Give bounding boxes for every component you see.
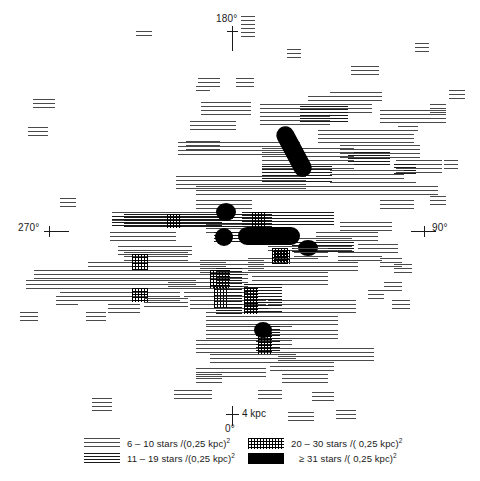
density-patch-level-1 — [196, 374, 222, 386]
legend-item-density-1: 6 – 10 stars /(0,25 kpc)2 — [84, 437, 235, 450]
legend-label-density-4-exponent: 2 — [393, 452, 397, 459]
legend-label-density-4: ≥ 31 stars /( 0,25 kpc)2 — [291, 452, 397, 464]
density-patch-level-1 — [340, 222, 392, 234]
density-map-canvas — [0, 0, 480, 481]
density-patch-level-1 — [86, 312, 106, 324]
legend-swatch-density-3 — [248, 438, 284, 449]
density-patch-level-1 — [28, 127, 48, 139]
scale-bar-label: 4 kpc — [242, 408, 266, 419]
density-patch-level-4 — [215, 228, 233, 246]
legend-label-density-4-text: ≥ 31 stars /( 0,25 kpc) — [299, 454, 393, 465]
density-patch-level-2 — [216, 268, 242, 316]
density-patch-level-4 — [216, 203, 236, 221]
legend-item-density-2: 11 – 19 stars /(0,25 kpc)2 — [84, 452, 235, 465]
density-patch-level-1 — [351, 66, 379, 78]
density-patch-level-1 — [241, 16, 255, 38]
density-patch-level-1 — [278, 348, 374, 362]
density-patch-level-3 — [252, 212, 266, 228]
density-patch-level-1 — [270, 362, 334, 374]
density-patch-level-1 — [190, 121, 236, 133]
density-patch-level-1 — [394, 264, 412, 274]
density-patch-level-1 — [312, 392, 334, 402]
density-patch-level-1 — [56, 296, 78, 306]
density-patch-level-1 — [384, 282, 402, 292]
density-patch-level-1 — [444, 160, 458, 170]
density-patch-level-4 — [238, 227, 300, 245]
density-patch-level-1 — [430, 104, 446, 114]
density-patch-level-1 — [430, 196, 446, 206]
density-patch-level-1 — [144, 298, 188, 310]
legend-item-density-3: 20 – 30 stars /( 0,25 kpc)2 — [248, 437, 402, 450]
density-patch-level-1 — [368, 290, 384, 300]
legend-swatch-density-2 — [84, 453, 120, 464]
density-patch-level-2 — [348, 152, 390, 166]
density-patch-level-1 — [258, 390, 282, 400]
density-patch-level-1 — [33, 99, 55, 109]
density-patch-level-1 — [196, 186, 376, 198]
legend-item-density-4: ≥ 31 stars /( 0,25 kpc)2 — [248, 452, 402, 465]
legend-column-left: 6 – 10 stars /(0,25 kpc)2 11 – 19 stars … — [84, 437, 235, 467]
density-patch-level-3 — [132, 254, 148, 270]
legend-swatch-density-4 — [248, 453, 284, 464]
density-patch-level-3 — [244, 288, 258, 314]
density-patch-level-1 — [60, 198, 76, 210]
density-patch-level-4 — [254, 322, 272, 338]
density-patch-level-1 — [449, 90, 465, 100]
axis-tick-270-horizontal — [44, 231, 69, 232]
axis-label-0: 0° — [225, 423, 235, 434]
density-patch-level-1 — [20, 312, 38, 322]
density-patch-level-1 — [380, 200, 414, 212]
density-patch-level-1 — [415, 43, 429, 52]
legend-label-density-2: 11 – 19 stars /(0,25 kpc)2 — [127, 452, 235, 464]
axis-tick-180-vertical — [232, 26, 233, 51]
axis-label-180: 180° — [216, 13, 237, 24]
density-patch-level-1 — [392, 300, 410, 310]
legend-label-density-3: 20 – 30 stars /( 0,25 kpc)2 — [291, 437, 402, 449]
axis-tick-90-vertical — [424, 226, 425, 237]
scale-bar-horizontal-rule — [226, 414, 239, 415]
density-patch-level-3 — [167, 214, 181, 228]
density-patch-level-1 — [196, 86, 210, 94]
density-patch-level-1 — [336, 410, 356, 422]
density-patch-level-3 — [272, 248, 288, 264]
density-patch-level-1 — [92, 398, 112, 412]
density-patch-level-1 — [108, 304, 140, 314]
density-patch-level-1 — [272, 330, 338, 342]
density-patch-level-2 — [300, 106, 348, 124]
density-patch-level-1 — [236, 78, 254, 87]
density-patch-level-1 — [287, 49, 301, 59]
legend-label-density-1: 6 – 10 stars /(0,25 kpc)2 — [127, 437, 230, 449]
axis-tick-270-vertical — [49, 226, 50, 237]
legend-label-density-3-text: 20 – 30 stars /( 0,25 kpc) — [291, 439, 399, 450]
density-patch-level-1 — [110, 232, 176, 244]
density-patch-level-1 — [338, 252, 382, 264]
density-patch-level-1 — [174, 390, 212, 402]
density-patch-level-1 — [288, 412, 314, 424]
legend-label-density-3-exponent: 2 — [399, 437, 403, 444]
axis-label-270: 270° — [18, 222, 39, 233]
density-patch-level-1 — [294, 248, 328, 260]
density-patch-level-1 — [136, 31, 152, 39]
legend-label-density-2-text: 11 – 19 stars /(0,25 kpc) — [127, 454, 231, 465]
legend-label-density-1-exponent: 2 — [227, 437, 231, 444]
legend-label-density-2-exponent: 2 — [231, 452, 235, 459]
density-patch-level-1 — [201, 102, 251, 118]
density-patch-level-1 — [268, 300, 356, 314]
density-patch-level-1 — [282, 374, 328, 386]
legend-swatch-density-1 — [84, 438, 120, 449]
legend-label-density-1-text: 6 – 10 stars /(0,25 kpc) — [127, 439, 227, 450]
star-density-map-figure: 180° 270° 90° 4 kpc 0° 6 – 10 stars /(0,… — [0, 0, 480, 481]
axis-tick-180-horizontal — [227, 31, 238, 32]
density-patch-level-1 — [398, 122, 418, 134]
legend-column-right: 20 – 30 stars /( 0,25 kpc)2 ≥ 31 stars /… — [248, 437, 402, 467]
